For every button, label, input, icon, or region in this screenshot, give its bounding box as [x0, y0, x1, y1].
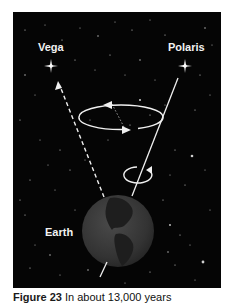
future-axis-line	[60, 86, 104, 197]
earth-globe	[82, 195, 154, 267]
caption-text: In about 13,000 years	[65, 291, 171, 303]
precession-arrow-left	[103, 101, 112, 109]
vega-label: Vega	[38, 42, 64, 53]
polaris-label: Polaris	[168, 42, 205, 53]
current-axis-line-south	[100, 262, 107, 277]
precession-circle-icon	[79, 105, 163, 130]
figure-number: Figure 23	[13, 291, 62, 303]
precession-diagram: Vega Polaris Earth	[13, 12, 221, 288]
diagram-art	[13, 12, 221, 288]
figure-caption: Figure 23 In about 13,000 years	[13, 291, 171, 303]
precession-arrow-right	[122, 126, 131, 134]
current-axis-line	[132, 78, 178, 196]
future-axis-arrowhead	[55, 81, 62, 90]
rotation-arrowhead	[146, 166, 152, 174]
vega-star-icon	[44, 59, 58, 73]
polaris-star-icon	[178, 59, 192, 73]
earth-label: Earth	[45, 227, 73, 238]
